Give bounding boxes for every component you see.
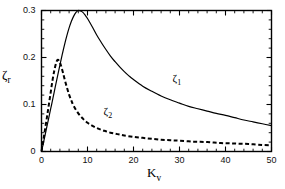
y-tick-label: 0.1 (0, 100, 36, 109)
axes-frame (42, 11, 272, 152)
y-tick-label: 0.2 (0, 53, 36, 62)
y-axis-title: ζr (2, 68, 28, 94)
curve-label-subscript: 2 (108, 112, 112, 121)
x-tick-label: 20 (114, 156, 154, 165)
chart-figure: 00.10.20.3 01020304050 ζr Kv ζ1ζ2 (0, 0, 284, 189)
y-tick-label: 0 (0, 147, 36, 156)
series-curve-2 (42, 60, 272, 152)
curve-label-1: ζ1 (173, 73, 182, 87)
x-tick-label: 30 (160, 156, 200, 165)
y-tick-label: 0.3 (0, 6, 36, 15)
x-tick-label: 10 (68, 156, 108, 165)
x-axis-title-subscript: v (156, 173, 161, 183)
x-tick-label: 50 (252, 156, 285, 165)
curve-label-subscript: 1 (177, 78, 181, 87)
series-curve-1 (42, 10, 272, 151)
major-ticks (42, 11, 272, 152)
series-layer (42, 10, 272, 151)
x-axis-title: Kv (147, 166, 161, 183)
y-axis-title-subscript: r (7, 75, 10, 85)
curve-label-2: ζ2 (104, 106, 113, 120)
x-tick-label: 40 (206, 156, 246, 165)
x-axis-title-base: K (147, 165, 156, 180)
x-tick-label: 0 (22, 156, 62, 165)
minor-ticks (42, 11, 272, 152)
